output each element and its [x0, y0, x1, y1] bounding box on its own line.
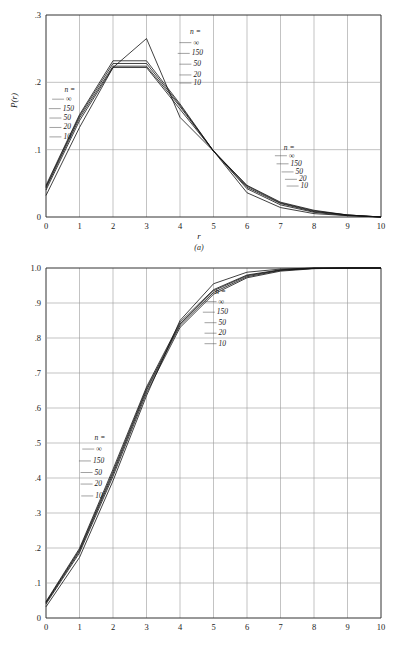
x-tick-label: 0 — [44, 622, 48, 632]
series-annotation: 10 — [95, 491, 103, 500]
x-tick-label: 4 — [178, 622, 183, 632]
y-tick-label: .7 — [35, 368, 41, 378]
y-tick-label: 0 — [37, 613, 41, 623]
chart-a-ylabel: P(r) — [9, 94, 19, 108]
y-tick-label: .2 — [35, 543, 41, 553]
y-tick-label: .8 — [35, 333, 41, 343]
x-tick-label: 7 — [278, 221, 282, 231]
y-tick-label: .3 — [35, 10, 41, 20]
series-annotation: 50 — [95, 468, 103, 477]
y-tick-label: .3 — [35, 508, 41, 518]
x-tick-label: 2 — [111, 221, 115, 231]
y-tick-label: .1 — [35, 145, 41, 155]
x-tick-label: 6 — [245, 221, 249, 231]
chart-b-canvas: 0123456789100.1.2.3.4.5.6.7.8.91.0n =∞15… — [0, 255, 398, 650]
series-annotation: ∞ — [193, 38, 199, 47]
x-tick-label: 9 — [345, 622, 349, 632]
x-tick-label: 0 — [44, 221, 48, 231]
series-annotation: 50 — [219, 318, 227, 327]
y-tick-label: .4 — [35, 473, 42, 483]
series-annotation: 20 — [63, 122, 71, 131]
y-tick-label: 1.0 — [30, 263, 41, 273]
chart-a-xlabel: r — [0, 231, 398, 241]
x-tick-label: 1 — [77, 221, 81, 231]
series-annotation: 50 — [63, 113, 71, 122]
series-annotation: 10 — [63, 132, 71, 141]
y-tick-label: .1 — [35, 578, 41, 588]
x-tick-label: 3 — [144, 622, 148, 632]
series-annotation: ∞ — [219, 297, 225, 306]
y-tick-label: .9 — [35, 298, 41, 308]
x-tick-label: 8 — [312, 221, 316, 231]
chart-a-canvas: 0123456789100.1.2.3n =∞150502010n =∞1505… — [0, 0, 398, 258]
x-tick-label: 9 — [345, 221, 349, 231]
series-annotation: 150 — [93, 456, 105, 465]
series-annotation: 20 — [219, 328, 227, 337]
figure-b: 0123456789100.1.2.3.4.5.6.7.8.91.0n =∞15… — [0, 255, 398, 650]
series-annotation: n = — [190, 27, 201, 36]
x-tick-label: 5 — [211, 221, 215, 231]
series-annotation: 150 — [63, 104, 75, 113]
series-annotation: 10 — [219, 339, 227, 348]
y-tick-label: 0 — [37, 212, 41, 222]
series-annotation: 50 — [193, 59, 201, 68]
x-tick-label: 4 — [178, 221, 183, 231]
chart-a-caption: (a) — [0, 243, 398, 252]
y-tick-label: .5 — [35, 438, 41, 448]
y-tick-label: .6 — [35, 403, 41, 413]
series-annotation: 150 — [217, 307, 229, 316]
series-annotation: 20 — [95, 479, 103, 488]
series-annotation: n = — [64, 85, 75, 94]
series-annotation: n = — [95, 433, 106, 442]
x-tick-label: 8 — [312, 622, 316, 632]
x-tick-label: 7 — [278, 622, 282, 632]
series-annotation: n = — [215, 287, 226, 296]
x-tick-label: 6 — [245, 622, 249, 632]
x-tick-label: 5 — [211, 622, 215, 632]
series-annotation: 150 — [192, 48, 204, 57]
x-tick-label: 2 — [111, 622, 115, 632]
series-annotation: ∞ — [96, 444, 102, 453]
figure-a: 0123456789100.1.2.3n =∞150502010n =∞1505… — [0, 0, 398, 258]
x-tick-label: 1 — [77, 622, 81, 632]
x-tick-label: 10 — [377, 622, 386, 632]
series-annotation: 10 — [193, 78, 201, 87]
y-tick-label: .2 — [35, 77, 41, 87]
x-tick-label: 10 — [377, 221, 386, 231]
series-annotation: 10 — [301, 181, 309, 190]
x-tick-label: 3 — [144, 221, 148, 231]
series-annotation: ∞ — [66, 94, 72, 103]
